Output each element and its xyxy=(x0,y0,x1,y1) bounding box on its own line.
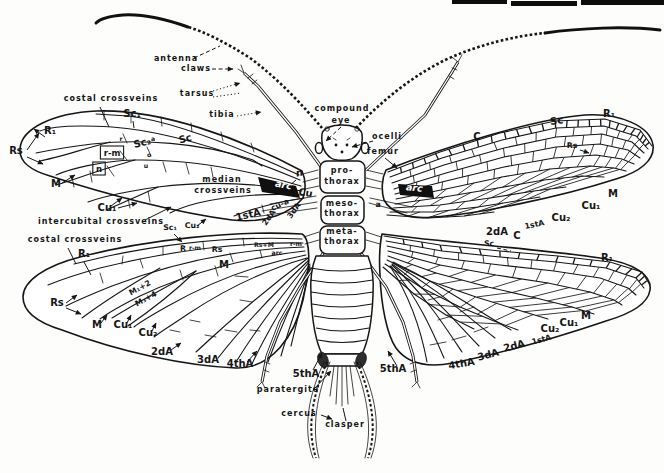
left-forewing xyxy=(20,111,305,221)
label-meta2: thorax xyxy=(324,237,360,246)
label-icv: intercubital crossveins xyxy=(38,217,164,226)
label-rm-t2: r-m xyxy=(290,240,302,247)
label-2da-fr: 2dA xyxy=(486,226,508,237)
stonefly-diagram: antennaclawstarsustibiacompoundeyeocelli… xyxy=(0,0,664,473)
label-ccv-low: costal crossveins xyxy=(28,235,122,244)
label-o-fl: o xyxy=(147,151,151,158)
head xyxy=(315,125,368,160)
label-median2: crossveins xyxy=(194,186,252,195)
label-meso2: thorax xyxy=(324,209,360,218)
label-rs-fr: Rs xyxy=(567,141,578,150)
label-sc1-fl: Sc₁ xyxy=(123,108,141,119)
label-sc-fr: Sc xyxy=(549,114,564,127)
label-m-hl2: M xyxy=(92,319,102,330)
label-cercus: cercus xyxy=(281,409,316,418)
label-2da-hl: 2dA xyxy=(151,346,173,357)
cercus-right xyxy=(354,362,376,458)
label-clasper: clasper xyxy=(325,420,365,429)
label-cu2-hr: Cu₂ xyxy=(541,323,560,334)
label-c-fr: C xyxy=(473,131,480,142)
label-c-hr: C xyxy=(513,230,520,241)
label-rm-hl: r-m xyxy=(189,244,201,251)
label-rs-hl2: Rs xyxy=(50,297,64,308)
label-pro2: thorax xyxy=(324,177,360,186)
label-m-hl: M xyxy=(219,259,229,270)
label-a-r: a xyxy=(375,200,380,209)
right-forewing xyxy=(382,115,653,218)
label-rsm-t: Rs+M xyxy=(254,241,274,248)
label-u-fl: u xyxy=(144,162,148,169)
label-m-fl: M xyxy=(51,178,61,189)
label-median1: median xyxy=(202,175,241,184)
label-rm-fl: r-m xyxy=(104,148,121,158)
label-cu1-fl: Cu₁ xyxy=(98,202,117,213)
label-ccv-top: costal crossveins xyxy=(64,94,158,103)
label-tarsus: tarsus xyxy=(180,89,214,98)
label-cu1-fr: Cu₁ xyxy=(582,200,601,211)
page-artifact-bar xyxy=(452,0,664,6)
label-r1-hr: R₁ xyxy=(601,252,613,263)
ocellus xyxy=(335,144,338,147)
label-sc-hr: Sc xyxy=(484,239,495,248)
label-cu2-hl: Cu₂ xyxy=(139,327,158,338)
label-rs-hl: Rs xyxy=(212,245,223,254)
ocellus xyxy=(341,151,344,154)
label-n-fl: n xyxy=(96,164,102,174)
compound-eye-left xyxy=(315,142,322,153)
label-cu1-hr: Cu₁ xyxy=(560,317,579,328)
label-cu2-fr: Cu₂ xyxy=(552,212,571,223)
label-r1-hl: R₁ xyxy=(78,248,90,259)
label-cu2-fl: Cu₂ xyxy=(185,221,200,230)
label-partg: paratergite xyxy=(257,385,319,394)
insect-body xyxy=(96,15,660,458)
label-eye: eye xyxy=(331,116,350,125)
label-m-fr: M xyxy=(608,188,618,199)
label-r1-fr: R₁ xyxy=(603,108,615,119)
label-rs-fl: Rs xyxy=(9,145,23,156)
label-r1-fl: R₁ xyxy=(44,125,56,136)
label-sc1-lo: Sc₁ xyxy=(163,223,177,232)
label-femur: femur xyxy=(367,147,399,156)
label-arc-t: arc xyxy=(272,249,283,256)
label-firsta-fr: 1stA xyxy=(524,218,545,231)
label-a-fl: a xyxy=(151,135,155,142)
label-r-hl: R xyxy=(180,244,186,253)
label-5tha-r: 5thA xyxy=(380,363,407,374)
label-antenna: antenna xyxy=(154,54,198,63)
label-3da-hl: 3dA xyxy=(197,354,219,365)
claspers xyxy=(330,366,354,406)
label-m-hr: M xyxy=(581,310,591,321)
label-ocelli: ocelli xyxy=(372,132,402,141)
label-meso: meso- xyxy=(326,199,358,208)
label-n-it: n xyxy=(295,166,304,178)
label-compound: compound xyxy=(315,104,370,113)
label-claws: claws xyxy=(181,64,211,73)
label-pro: pro- xyxy=(331,166,354,175)
figure-stonefly-anatomy: antennaclawstarsustibiacompoundeyeocelli… xyxy=(0,0,664,473)
label-cu1-hl: Cu₁ xyxy=(114,319,133,330)
label-4tha-hl: 4thA xyxy=(227,358,254,369)
label-tibia: tibia xyxy=(209,110,234,119)
label-5tha-hl: 5thA xyxy=(293,368,320,379)
ocellus xyxy=(346,144,349,147)
label-arc-r: arc xyxy=(405,181,423,194)
label-meta: meta- xyxy=(326,227,357,236)
